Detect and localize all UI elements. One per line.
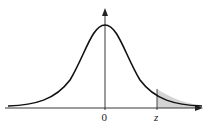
z-label: z xyxy=(153,111,159,123)
normal-curve-diagram: 0 z xyxy=(0,0,209,131)
y-axis-arrow-icon xyxy=(102,8,108,16)
origin-label: 0 xyxy=(102,111,108,123)
